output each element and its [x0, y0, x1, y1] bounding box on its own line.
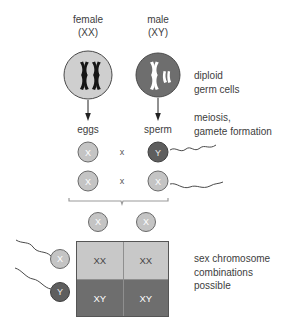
combinations-note: sex chromosome combinations possible [194, 252, 270, 293]
female-germ-cell [64, 51, 113, 100]
cross-operator-row2: x [120, 176, 125, 186]
punnett-top-gamete-1: X [88, 212, 108, 232]
meiosis-line-2: gamete formation [194, 125, 272, 139]
gametes-bracket [69, 198, 168, 204]
punnett-left-gamete-x: X [50, 249, 70, 269]
meiosis-line-1: meiosis, [194, 111, 272, 125]
male-parent-label: male (XY) [147, 14, 169, 39]
sperm-tail-row1 [170, 145, 216, 151]
xx-chromosome-pair-icon [65, 52, 114, 101]
punnett-cell-xx-1: XX [77, 242, 123, 279]
female-parent-name: female [73, 14, 103, 27]
punnett-cell-xy-1: XY [77, 279, 123, 316]
eggs-label: eggs [77, 124, 99, 137]
punnett-sperm-tail-x [16, 240, 51, 256]
punnett-cell-xx-2: XX [123, 242, 169, 279]
combinations-line-1: sex chromosome [194, 252, 270, 266]
punnett-top-gamete-2: X [136, 212, 156, 232]
combinations-line-2: combinations [194, 266, 270, 280]
cross-operator-row1: x [120, 147, 125, 157]
female-parent-genotype: (XX) [73, 27, 103, 40]
sperm-gamete-row1: Y [148, 142, 169, 163]
meiosis-note: meiosis, gamete formation [194, 111, 272, 138]
xy-chromosome-pair-icon [137, 54, 182, 99]
punnett-square: XX XX XY XY [76, 241, 169, 317]
male-arrow-head [155, 113, 161, 121]
female-arrow-head [85, 113, 91, 121]
sperm-tail-row2 [170, 182, 223, 188]
male-germ-cell [136, 53, 181, 98]
diploid-line-1: diploid [194, 69, 240, 83]
diploid-germ-cells-note: diploid germ cells [194, 69, 240, 96]
diploid-line-2: germ cells [194, 83, 240, 97]
punnett-sperm-tail-y [15, 268, 51, 289]
egg-gamete-row2: X [78, 171, 99, 192]
punnett-left-gamete-y: Y [50, 282, 70, 302]
combinations-line-3: possible [194, 279, 270, 293]
sperm-label: sperm [144, 124, 172, 137]
male-parent-name: male [147, 14, 169, 27]
female-parent-label: female (XX) [73, 14, 103, 39]
sperm-gamete-row2: X [148, 171, 169, 192]
sex-determination-diagram: female (XX) male (XY) diploid [0, 0, 306, 330]
egg-gamete-row1: X [78, 142, 99, 163]
male-parent-genotype: (XY) [147, 27, 169, 40]
punnett-cell-xy-2: XY [123, 279, 169, 316]
